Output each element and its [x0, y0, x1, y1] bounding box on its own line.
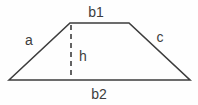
trapezoid-diagram: b1 a c h b2 — [0, 0, 198, 105]
label-right-side: c — [157, 29, 164, 45]
label-top-base: b1 — [88, 4, 104, 20]
trapezoid-figure: b1 a c h b2 — [0, 0, 198, 105]
label-left-side: a — [25, 32, 33, 48]
label-height: h — [79, 48, 87, 64]
label-bottom-base: b2 — [91, 86, 107, 102]
